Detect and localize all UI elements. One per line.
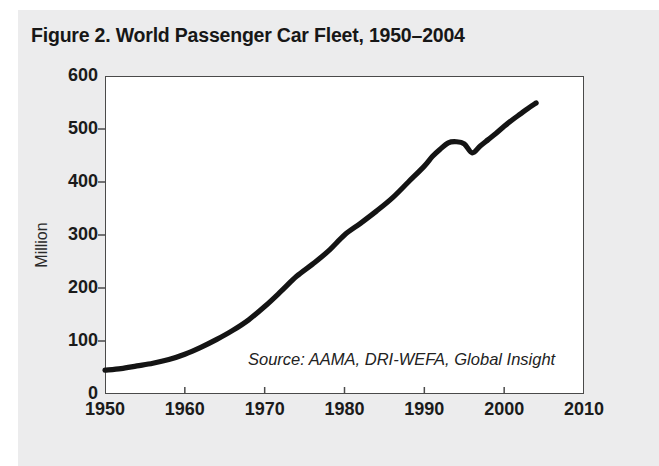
x-axis-tick-label: 1950	[65, 399, 145, 420]
x-axis-tick-label: 1990	[384, 399, 464, 420]
chart-canvas	[0, 0, 659, 466]
axis-ticks	[98, 129, 504, 394]
x-axis-tick-label: 2000	[464, 399, 544, 420]
x-axis-tick-label: 1960	[145, 399, 225, 420]
x-axis-tick-label: 2010	[544, 399, 624, 420]
figure-page: Figure 2. World Passenger Car Fleet, 195…	[0, 0, 659, 466]
x-axis-tick-label: 1980	[305, 399, 385, 420]
data-line-series-0	[105, 103, 536, 370]
x-axis-tick-label: 1970	[225, 399, 305, 420]
